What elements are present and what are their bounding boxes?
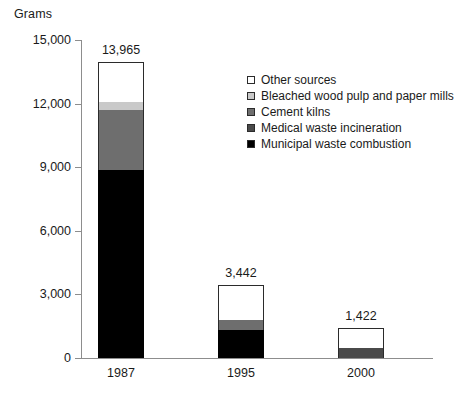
bar-segment[interactable]	[218, 330, 264, 358]
x-axis-line	[81, 358, 433, 359]
bar-segment[interactable]	[98, 102, 144, 110]
legend-item-label: Municipal waste combustion	[261, 138, 411, 150]
y-tick-mark	[75, 358, 81, 359]
bar-segment[interactable]	[98, 62, 144, 102]
bar-segment[interactable]	[338, 348, 384, 358]
legend-item[interactable]: Municipal waste combustion	[247, 136, 454, 152]
y-tick-label: 3,000	[1, 288, 71, 301]
y-tick-mark	[75, 40, 81, 41]
x-axis-label: 1987	[76, 366, 166, 380]
bar-total-label: 13,965	[76, 44, 166, 57]
bar-total-label: 3,442	[196, 267, 286, 280]
y-tick-mark	[75, 294, 81, 295]
bar-total-label: 1,422	[316, 310, 406, 323]
legend-item[interactable]: Cement kilns	[247, 104, 454, 120]
y-tick-label: 6,000	[1, 225, 71, 238]
legend-swatch-icon	[247, 92, 255, 100]
x-axis-label: 1995	[196, 366, 286, 380]
stacked-bar[interactable]	[338, 328, 384, 358]
legend-item[interactable]: Medical waste incineration	[247, 120, 454, 136]
bar-segment[interactable]	[218, 320, 264, 330]
legend-item-label: Other sources	[261, 74, 336, 86]
y-tick-label: 9,000	[1, 161, 71, 174]
y-tick-label: 12,000	[1, 98, 71, 111]
y-tick-label: 0	[1, 352, 71, 365]
legend-swatch-icon	[247, 76, 255, 84]
legend-item[interactable]: Bleached wood pulp and paper mills	[247, 88, 454, 104]
legend-item[interactable]: Other sources	[247, 72, 454, 88]
legend-item-label: Cement kilns	[261, 106, 330, 118]
bar-segment[interactable]	[338, 328, 384, 348]
legend-swatch-icon	[247, 108, 255, 116]
stacked-bar[interactable]	[98, 62, 144, 358]
legend-swatch-icon	[247, 124, 255, 132]
y-tick-mark	[75, 104, 81, 105]
bar-segment[interactable]	[98, 110, 144, 170]
legend-item-label: Bleached wood pulp and paper mills	[261, 90, 454, 102]
y-tick-mark	[75, 167, 81, 168]
bar-segment[interactable]	[218, 285, 264, 320]
legend-item-label: Medical waste incineration	[261, 122, 402, 134]
x-axis-label: 2000	[316, 366, 406, 380]
y-tick-mark	[75, 231, 81, 232]
legend-swatch-icon	[247, 140, 255, 148]
y-tick-label: 15,000	[1, 34, 71, 47]
stacked-bar[interactable]	[218, 285, 264, 358]
y-axis-line	[81, 40, 82, 359]
chart-legend: Other sourcesBleached wood pulp and pape…	[247, 72, 454, 152]
bar-segment[interactable]	[98, 170, 144, 358]
